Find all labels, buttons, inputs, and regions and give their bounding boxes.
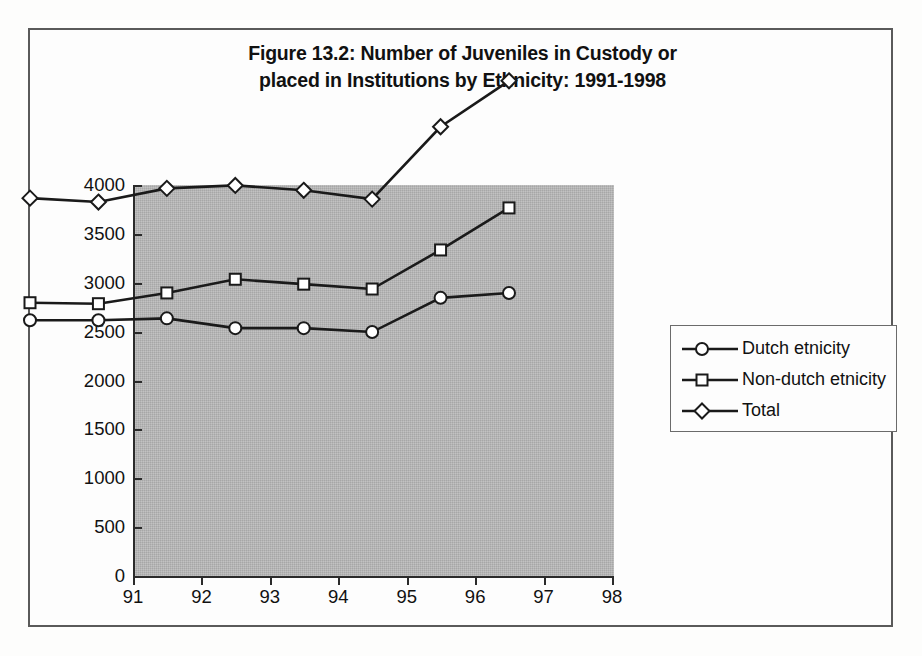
y-axis-tick-label: 1500 — [59, 418, 125, 440]
legend-marker-circle-icon — [680, 338, 740, 360]
x-axis-tick-mark — [475, 576, 477, 585]
series-data-point — [23, 191, 38, 206]
x-axis-tick-mark — [544, 576, 546, 585]
series-data-point — [298, 322, 310, 334]
x-axis-tick-label: 92 — [171, 586, 231, 608]
series-data-point — [161, 287, 172, 298]
series-line — [30, 81, 509, 202]
x-axis-tick-mark — [201, 576, 203, 585]
series-data-point — [159, 181, 174, 196]
series-data-point — [367, 284, 378, 295]
chart-legend: Dutch etnicityNon-dutch etnicityTotal — [670, 325, 897, 432]
series-data-point — [92, 314, 104, 326]
page-background: Figure 13.2: Number of Juveniles in Cust… — [0, 0, 922, 656]
x-axis-tick-mark — [133, 576, 135, 585]
series-data-point — [230, 274, 241, 285]
x-axis-tick-label: 98 — [582, 586, 642, 608]
y-axis-tick-mark — [133, 381, 142, 383]
chart-plot — [30, 30, 509, 421]
y-axis-tick-mark — [133, 527, 142, 529]
series-data-point — [25, 297, 36, 308]
x-axis-tick-mark — [612, 576, 614, 585]
series-data-point — [91, 195, 106, 210]
chart-series — [23, 73, 517, 209]
series-data-point — [435, 292, 447, 304]
series-data-point — [161, 312, 173, 324]
y-axis-tick-label: 0 — [59, 565, 125, 587]
x-axis-tick-label: 95 — [377, 586, 437, 608]
x-axis-tick-label: 97 — [514, 586, 574, 608]
x-axis-tick-label: 91 — [103, 586, 163, 608]
x-axis-tick-label: 94 — [308, 586, 368, 608]
x-axis-tick-label: 93 — [240, 586, 300, 608]
legend-item-label: Total — [742, 400, 780, 421]
series-data-point — [503, 287, 515, 299]
series-data-point — [93, 298, 104, 309]
y-axis-tick-label: 1000 — [59, 467, 125, 489]
x-axis-tick-mark — [270, 576, 272, 585]
legend-marker-square-icon — [680, 369, 740, 391]
y-axis-tick-mark — [133, 332, 142, 334]
series-data-point — [298, 279, 309, 290]
x-axis-tick-label: 96 — [445, 586, 505, 608]
series-data-point — [366, 326, 378, 338]
legend-item-label: Dutch etnicity — [742, 338, 850, 359]
legend-item: Dutch etnicity — [671, 333, 896, 364]
legend-marker-diamond-icon — [680, 400, 740, 422]
legend-item: Total — [671, 395, 896, 426]
x-axis-tick-mark — [407, 576, 409, 585]
chart-series — [24, 287, 515, 338]
series-data-point — [435, 244, 446, 255]
y-axis-tick-mark — [133, 478, 142, 480]
y-axis-tick-mark — [133, 429, 142, 431]
legend-item: Non-dutch etnicity — [671, 364, 896, 395]
series-data-point — [24, 314, 36, 326]
legend-item-label: Non-dutch etnicity — [742, 369, 886, 390]
y-axis-tick-mark — [133, 185, 142, 187]
series-data-point — [504, 202, 515, 213]
y-axis-tick-mark — [133, 283, 142, 285]
y-axis-tick-mark — [133, 234, 142, 236]
series-data-point — [296, 183, 311, 198]
figure-frame: Figure 13.2: Number of Juveniles in Cust… — [28, 28, 893, 627]
x-axis-labels: 9192939495969798 — [133, 586, 612, 620]
x-axis-tick-mark — [338, 576, 340, 585]
series-data-point — [229, 322, 241, 334]
series-data-point — [228, 178, 243, 193]
y-axis-tick-label: 500 — [59, 516, 125, 538]
